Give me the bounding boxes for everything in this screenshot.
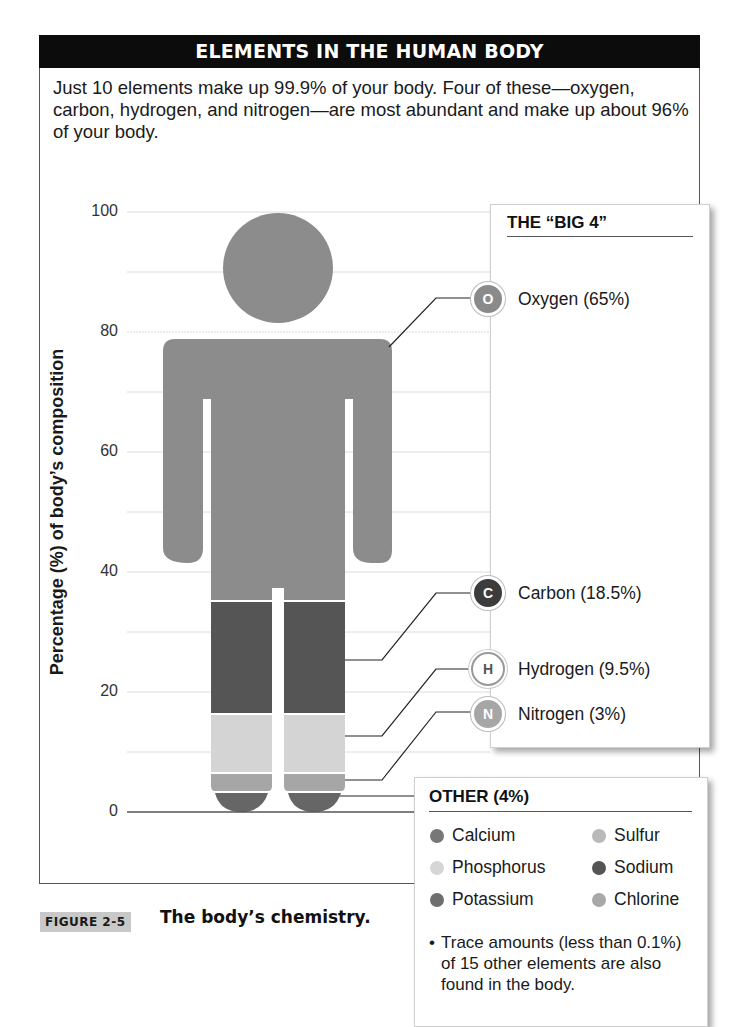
hydrogen-segment-left — [211, 715, 272, 772]
hydrogen-segment-right — [284, 715, 345, 772]
potassium-dot-icon — [430, 893, 444, 907]
carbon-segment-left — [211, 602, 272, 713]
figure-caption: The body’s chemistry. — [160, 907, 371, 927]
oxygen-badge-icon: O — [471, 282, 505, 316]
figure-head — [223, 213, 333, 323]
calcium-dot-icon — [430, 829, 444, 843]
calcium-label: Calcium — [452, 825, 515, 846]
carbon-label: Carbon (18.5%) — [518, 583, 642, 604]
nitrogen-label: Nitrogen (3%) — [518, 704, 626, 725]
other-segment-right — [288, 793, 341, 812]
other-segment-left — [215, 793, 268, 812]
chlorine-label: Chlorine — [614, 889, 679, 910]
nitrogen-segment-left — [211, 774, 272, 791]
oxygen-segment — [163, 339, 392, 600]
nitrogen-badge-icon: N — [471, 697, 505, 731]
nitrogen-segment-right — [284, 774, 345, 791]
sodium-dot-icon — [592, 861, 606, 875]
sodium-label: Sodium — [614, 857, 673, 878]
phosphorus-label: Phosphorus — [452, 857, 545, 878]
chlorine-dot-icon — [592, 893, 606, 907]
oxygen-label: Oxygen (65%) — [518, 289, 630, 310]
note-bullet: • — [429, 932, 435, 953]
carbon-badge-icon: C — [471, 576, 505, 610]
other-title: OTHER (4%) — [429, 787, 529, 807]
phosphorus-dot-icon — [430, 861, 444, 875]
big4-title: THE “BIG 4” — [507, 213, 607, 233]
hydrogen-label: Hydrogen (9.5%) — [518, 659, 650, 680]
big4-rule — [507, 236, 693, 237]
figure-tag: FIGURE 2-5 — [40, 912, 131, 932]
trace-note: Trace amounts (less than 0.1%) of 15 oth… — [441, 932, 691, 995]
sulfur-label: Sulfur — [614, 825, 660, 846]
potassium-label: Potassium — [452, 889, 534, 910]
hydrogen-badge-icon: H — [471, 652, 505, 686]
other-rule — [429, 811, 692, 812]
sulfur-dot-icon — [592, 829, 606, 843]
carbon-segment-right — [284, 602, 345, 713]
